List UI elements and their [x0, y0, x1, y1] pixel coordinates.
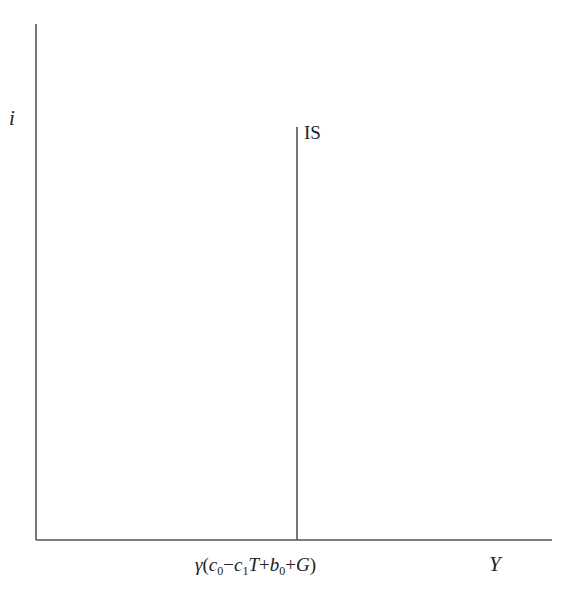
x-intercept-label: γ(c0−c1T+b0+G): [195, 554, 316, 579]
x-axis-label: Y: [489, 552, 501, 577]
is-diagram: i IS Y γ(c0−c1T+b0+G): [0, 0, 575, 608]
diagram-canvas: [0, 0, 575, 608]
y-axis-label: i: [9, 106, 15, 131]
is-curve-label: IS: [304, 122, 321, 144]
